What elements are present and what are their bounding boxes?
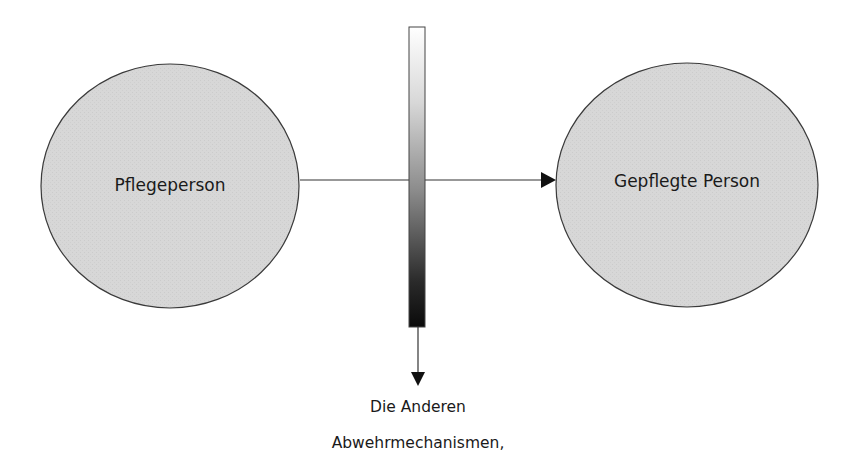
arrowhead-right-icon bbox=[541, 172, 556, 188]
diagram-canvas bbox=[0, 0, 857, 465]
label-abwehrmechanismen: Abwehrmechanismen, bbox=[332, 434, 505, 452]
barrier-bar bbox=[409, 27, 425, 327]
arrowhead-down-icon bbox=[411, 372, 425, 386]
label-die-anderen: Die Anderen bbox=[370, 398, 466, 416]
label-gepflegte-person: Gepflegte Person bbox=[614, 171, 760, 191]
label-pflegeperson: Pflegeperson bbox=[115, 175, 226, 195]
